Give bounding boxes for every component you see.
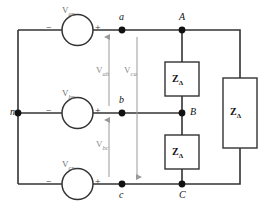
polarity-minus-van: − <box>46 23 52 33</box>
node-dot-a <box>119 27 126 34</box>
voltage-arrows <box>109 37 137 177</box>
source-circle-van <box>62 15 93 46</box>
node-dot-C <box>179 181 186 188</box>
node-label-A: A <box>179 12 185 22</box>
source-circle-vcn <box>62 169 93 200</box>
node-label-n: n <box>10 107 15 117</box>
polarity-minus-vcn: − <box>46 177 52 187</box>
node-label-a: a <box>119 12 124 22</box>
node-dot-c <box>119 181 126 188</box>
node-label-c: c <box>119 190 123 200</box>
node-label-C: C <box>179 190 186 200</box>
circuit-diagram: Van Vbn Vcn − + − + − + Vab Vbc Vca n a … <box>0 0 265 214</box>
polarity-plus-van: + <box>95 23 101 33</box>
impedance-label-z-bc: ZΔ <box>172 146 183 160</box>
node-label-b: b <box>119 95 124 105</box>
polarity-plus-vcn: + <box>95 177 101 187</box>
circuit-schematic-svg <box>0 0 265 214</box>
node-dot-n <box>15 110 22 117</box>
voltage-arrow-label-vab: Vab <box>96 66 109 77</box>
source-label-vcn: Vcn <box>62 160 75 171</box>
source-label-van: Van <box>62 6 75 17</box>
polarity-plus-vbn: + <box>95 106 101 116</box>
source-circle-vbn <box>62 98 93 129</box>
voltage-arrow-label-vbc: Vbc <box>96 140 109 151</box>
impedance-label-z-ab: ZΔ <box>172 73 183 87</box>
polarity-minus-vbn: − <box>46 106 52 116</box>
source-symbols <box>62 15 93 200</box>
node-dot-B <box>179 110 186 117</box>
impedance-label-z-ca: ZΔ <box>230 106 241 120</box>
source-label-vbn: Vbn <box>62 89 75 100</box>
voltage-arrow-label-vca: Vca <box>124 66 137 77</box>
node-dot-b <box>119 110 126 117</box>
node-label-B: B <box>190 107 196 117</box>
node-dot-A <box>179 27 186 34</box>
